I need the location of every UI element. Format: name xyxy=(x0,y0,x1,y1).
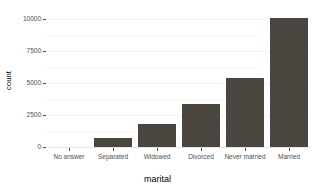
bar-chart: count marital 025005000750010000 No answ… xyxy=(0,0,315,191)
y-tick-mark xyxy=(43,83,46,84)
y-axis: 025005000750010000 xyxy=(0,0,47,191)
y-tick-label: 7500 xyxy=(27,46,41,56)
y-tick: 5000 xyxy=(0,78,47,88)
x-tick-label: Married xyxy=(278,153,300,160)
y-tick-mark xyxy=(43,19,46,20)
plot-panel xyxy=(47,14,311,147)
y-tick-mark xyxy=(43,115,46,116)
y-tick: 7500 xyxy=(0,46,47,56)
x-axis-title: marital xyxy=(0,174,315,184)
y-tick-label: 5000 xyxy=(27,78,41,88)
x-tick-label: Divorced xyxy=(188,153,214,160)
x-tick-mark xyxy=(289,148,290,151)
y-tick-mark xyxy=(43,51,46,52)
x-tick-label: No answer xyxy=(53,153,84,160)
x-tick-label: Separated xyxy=(98,153,128,160)
x-tick-label: Widowed xyxy=(144,153,171,160)
y-tick: 2500 xyxy=(0,110,47,120)
bar xyxy=(270,18,308,147)
bar xyxy=(138,124,176,147)
x-tick-mark xyxy=(245,148,246,151)
x-tick-mark xyxy=(201,148,202,151)
y-tick: 0 xyxy=(0,142,47,152)
y-tick: 10000 xyxy=(0,14,47,24)
y-tick-label: 0 xyxy=(37,142,41,152)
y-tick-mark xyxy=(43,147,46,148)
bar xyxy=(182,104,220,147)
y-tick-label: 10000 xyxy=(23,14,41,24)
x-tick-mark xyxy=(157,148,158,151)
x-tick-label: Never married xyxy=(224,153,265,160)
y-tick-label: 2500 xyxy=(27,110,41,120)
bar xyxy=(226,78,264,147)
x-axis: No answerSeparatedWidowedDivorcedNever m… xyxy=(47,147,311,175)
x-tick-mark xyxy=(69,148,70,151)
bar xyxy=(94,138,132,148)
x-tick-mark xyxy=(113,148,114,151)
